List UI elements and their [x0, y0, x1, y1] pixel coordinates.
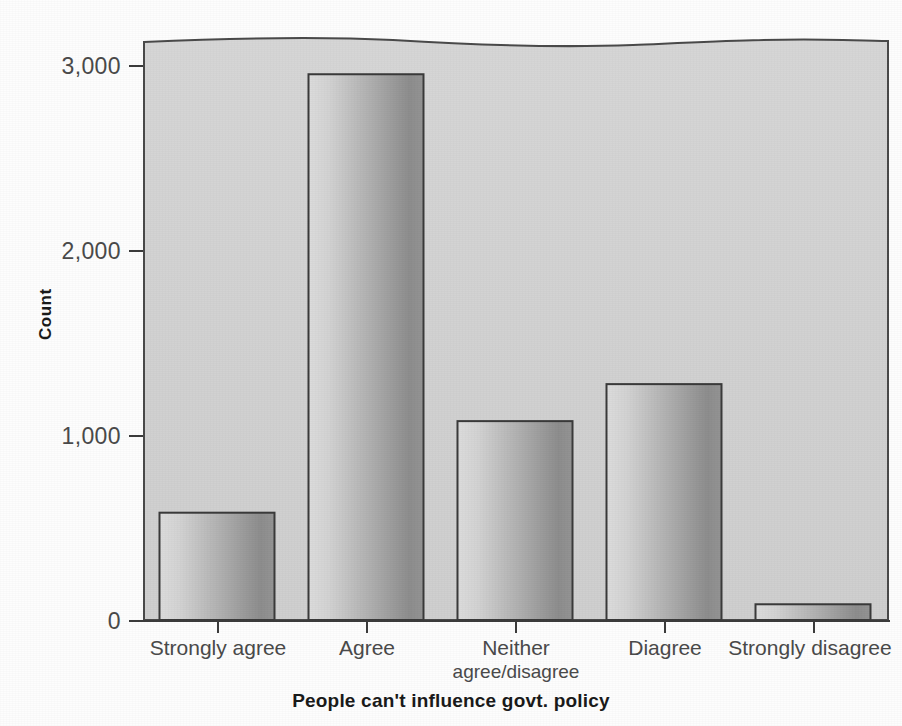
- x-tick-label-strongly-agree: Strongly agree: [150, 636, 287, 660]
- x-tick-mark-2: [366, 621, 368, 633]
- x-tick-label-strongly-disagree: Strongly disagree: [728, 636, 891, 660]
- bar-agree: [309, 74, 424, 620]
- y-axis: 3,000 2,000 1,000 0: [0, 0, 143, 726]
- y-tick-mark-2000: [129, 250, 143, 252]
- y-tick-label-3000: 3,000: [61, 53, 121, 80]
- x-tick-label-line2: agree/disagree: [453, 661, 580, 683]
- x-tick-label-neither: Neither agree/disagree: [453, 636, 580, 683]
- x-tick-label-diagree: Diagree: [628, 636, 702, 660]
- bar-strongly-agree: [160, 513, 275, 620]
- plot-area: [143, 34, 889, 621]
- x-tick-mark-4: [664, 621, 666, 633]
- bar-neither-agree-disagree: [458, 421, 573, 620]
- plot-svg: [143, 34, 889, 621]
- x-tick-label-line1: Diagree: [628, 636, 702, 659]
- y-tick-mark-3000: [129, 65, 143, 67]
- bar-chart-figure: 3,000 2,000 1,000 0 Count Strongly agree…: [0, 0, 902, 726]
- x-axis-line: [130, 620, 890, 622]
- y-tick-label-0: 0: [108, 608, 121, 635]
- y-tick-label-1000: 1,000: [61, 423, 121, 450]
- x-tick-mark-1: [217, 621, 219, 633]
- x-tick-label-line1: Strongly disagree: [728, 636, 891, 659]
- x-tick-label-line1: Neither: [482, 636, 550, 659]
- bar-strongly-disagree: [756, 604, 871, 620]
- x-tick-mark-5: [813, 621, 815, 633]
- x-axis-title: People can't influence govt. policy: [0, 690, 902, 712]
- x-tick-label-line1: Agree: [339, 636, 395, 659]
- bar-diagree: [607, 384, 722, 620]
- y-tick-label-2000: 2,000: [61, 238, 121, 265]
- y-axis-title: Count: [36, 288, 56, 340]
- y-tick-mark-1000: [129, 435, 143, 437]
- x-tick-label-line1: Strongly agree: [150, 636, 287, 659]
- x-tick-mark-3: [515, 621, 517, 633]
- x-tick-label-agree: Agree: [339, 636, 395, 660]
